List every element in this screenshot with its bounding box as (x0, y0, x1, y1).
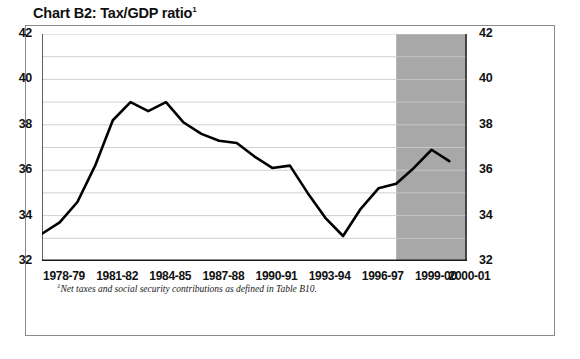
y-axis-tick-label-left: 42 (10, 26, 32, 40)
chart-title-footnote-marker: 1 (192, 5, 196, 14)
y-axis-tick-label-right: 40 (479, 71, 501, 85)
footnote-text: Net taxes and social security contributi… (61, 284, 317, 294)
x-axis-tick-label: 1996-97 (362, 269, 404, 283)
y-axis-tick-label-right: 42 (479, 26, 501, 40)
y-axis-tick-label-right: 34 (479, 208, 501, 222)
x-axis-tick-label: 1984-85 (149, 269, 191, 283)
plot-area (42, 34, 467, 261)
x-axis-tick-label: 1981-82 (96, 269, 138, 283)
x-axis-tick-label: 2000-01 (449, 269, 491, 283)
y-axis-tick-label-right: 38 (479, 117, 501, 131)
x-axis-tick-label: 1978-79 (43, 269, 85, 283)
x-axis-tick-label: 1987-88 (202, 269, 244, 283)
y-axis-tick-label-right: 32 (479, 253, 501, 267)
chart-title-text: Chart B2: Tax/GDP ratio (33, 5, 192, 21)
y-axis-tick-label-left: 40 (10, 71, 32, 85)
y-axis-tick-label-left: 34 (10, 208, 32, 222)
y-axis-tick-label-left: 38 (10, 117, 32, 131)
y-axis-tick-label-right: 36 (479, 162, 501, 176)
y-axis-tick-label-left: 32 (10, 253, 32, 267)
chart-footnote: 1Net taxes and social security contribut… (57, 282, 317, 294)
chart-title: Chart B2: Tax/GDP ratio1 (33, 5, 196, 21)
y-axis-tick-label-left: 36 (10, 162, 32, 176)
chart-plot-svg (42, 34, 467, 261)
x-axis-tick-label: 1993-94 (309, 269, 351, 283)
x-axis-tick-label: 1990-91 (256, 269, 298, 283)
